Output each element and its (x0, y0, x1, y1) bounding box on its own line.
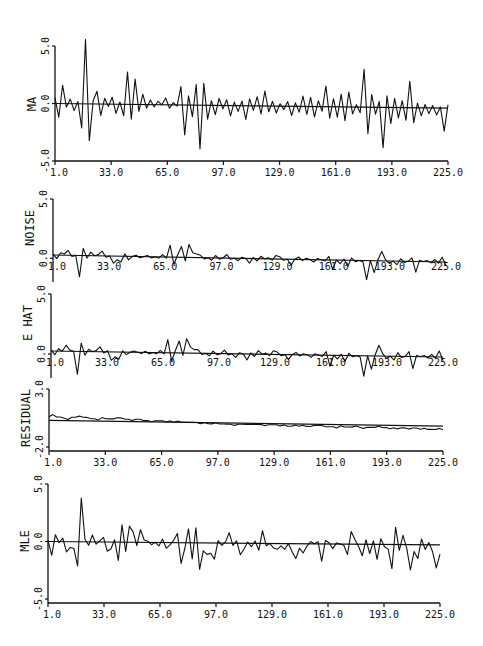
x-tick-label: 1.0 (48, 261, 66, 272)
panel-mle: 5.00.0-5.0MLE1.033.065.097.0129.0161.019… (18, 475, 455, 620)
x-tick-label: 97.0 (206, 457, 230, 468)
x-tick-label: 97.0 (207, 357, 231, 368)
x-tick-label: 129.0 (265, 167, 295, 178)
x-tick-label: 97.0 (211, 167, 235, 178)
x-tick-label: 193.0 (369, 609, 399, 620)
x-tick-label: 1.0 (50, 167, 68, 178)
x-tick-label: 161.0 (321, 167, 351, 178)
x-tick-label: 225.0 (431, 261, 461, 272)
x-tick-label: 65.0 (155, 167, 179, 178)
y-axis-label: NOISE (23, 210, 37, 246)
y-tick-label: 0.0 (40, 94, 51, 112)
y-tick-label: 5.0 (33, 475, 44, 493)
x-tick-label: 193.0 (377, 167, 407, 178)
y-tick-label: -2.0 (34, 435, 45, 459)
panel-e-hat: 5.00.0E HAT1.033.065.097.0129.0161.0193.… (21, 285, 458, 378)
baseline (48, 542, 440, 545)
series-line (55, 40, 448, 149)
x-tick-label: 33.0 (95, 357, 119, 368)
y-tick-label: 5.0 (36, 285, 47, 303)
x-tick-label: 225.0 (425, 609, 455, 620)
panel-residual: 3.0-2.0RESIDUAL1.033.065.097.0129.0161.0… (19, 380, 458, 468)
x-tick-label: 225.0 (428, 457, 458, 468)
x-tick-label: 1.0 (43, 609, 61, 620)
x-tick-label: 1.0 (46, 357, 64, 368)
x-tick-label: 33.0 (92, 609, 116, 620)
x-tick-label: 161.0 (315, 457, 345, 468)
x-tick-label: 33.0 (97, 261, 121, 272)
x-tick-label: 225.0 (433, 167, 463, 178)
panel-noise: 5.00.0NOISE1.033.065.097.0129.0161.0193.… (23, 190, 461, 282)
y-axis-label: MA (25, 96, 39, 111)
y-tick-label: -5.0 (33, 587, 44, 611)
series-line (48, 498, 440, 570)
x-tick-label: 129.0 (263, 261, 293, 272)
x-tick-label: 97.0 (209, 261, 233, 272)
y-tick-label: 5.0 (38, 190, 49, 208)
stacked-time-series-chart: 5.00.0-5.0MA1.033.065.097.0129.0161.0193… (0, 0, 483, 646)
x-tick-label: 97.0 (204, 609, 228, 620)
x-tick-label: 129.0 (260, 357, 290, 368)
y-axis-label: E HAT (21, 305, 35, 341)
x-tick-label: 33.0 (99, 167, 123, 178)
y-axis-label: RESIDUAL (19, 389, 33, 447)
x-tick-label: 129.0 (259, 457, 289, 468)
y-tick-label: 0.0 (33, 532, 44, 550)
x-tick-label: 193.0 (372, 457, 402, 468)
x-tick-label: 129.0 (257, 609, 287, 620)
x-tick-label: 65.0 (148, 609, 172, 620)
y-tick-label: 3.0 (34, 380, 45, 398)
x-tick-label: 33.0 (93, 457, 117, 468)
x-tick-label: 65.0 (150, 457, 174, 468)
baseline (49, 420, 443, 426)
y-axis-label: MLE (18, 530, 32, 552)
y-tick-label: 5.0 (40, 37, 51, 55)
panel-ma: 5.00.0-5.0MA1.033.065.097.0129.0161.0193… (25, 37, 463, 178)
series-line (49, 415, 443, 430)
x-tick-label: 225.0 (428, 357, 458, 368)
x-tick-label: 1.0 (44, 457, 62, 468)
x-tick-label: 161.0 (313, 609, 343, 620)
